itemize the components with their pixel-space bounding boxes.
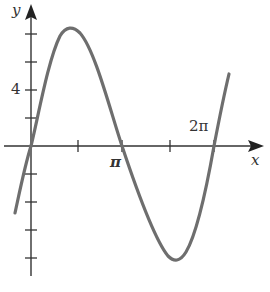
sine-wave-chart (0, 0, 270, 292)
x-axis-label: x (251, 153, 259, 168)
y-axis-label: y (12, 3, 20, 18)
x-tick-label-2pi: 2π (189, 119, 208, 134)
y-tick-label-4: 4 (11, 82, 21, 97)
x-tick-label-pi: π (110, 155, 121, 170)
sine-curve (15, 28, 229, 260)
